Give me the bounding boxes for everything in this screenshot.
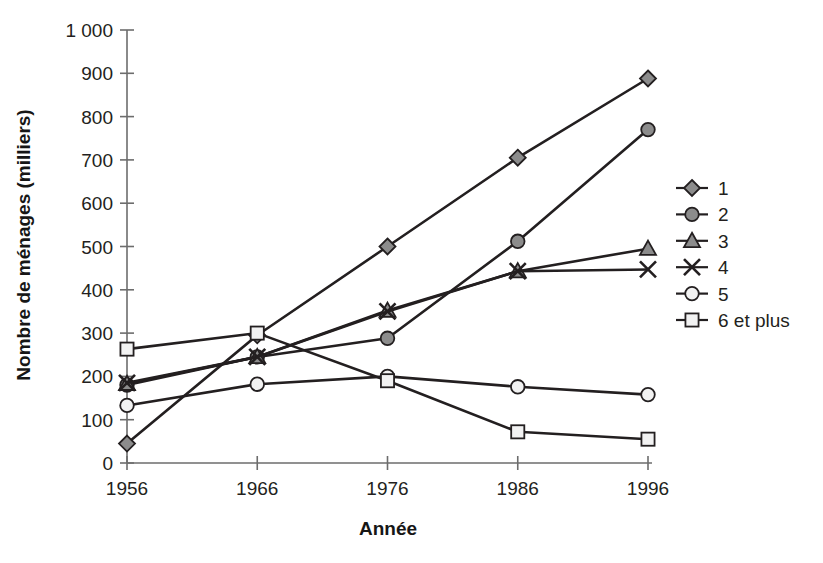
x-tick-label: 1956 (106, 478, 148, 499)
data-marker-square-open (511, 425, 524, 438)
circle-marker (381, 331, 395, 345)
y-tick-label: 500 (81, 237, 113, 258)
circle-marker (685, 208, 699, 222)
circle-marker (511, 235, 525, 249)
y-tick-label: 800 (81, 107, 113, 128)
circle-marker (685, 287, 699, 301)
data-marker-circle (641, 123, 655, 137)
y-tick-label: 900 (81, 63, 113, 84)
y-tick-label: 700 (81, 150, 113, 171)
legend-item-label: 1 (718, 178, 729, 199)
y-tick-label: 100 (81, 410, 113, 431)
x-axis-title: Année (359, 518, 417, 539)
circle-marker (641, 123, 655, 137)
square-marker (120, 343, 133, 356)
line-chart: 01002003004005006007008009001 000 195619… (0, 0, 823, 563)
data-marker-circle-open (120, 399, 134, 413)
data-marker-circle (381, 331, 395, 345)
data-marker-circle-open (250, 377, 264, 391)
data-marker-square-open (641, 433, 654, 446)
square-marker (251, 327, 264, 340)
chart-canvas: 01002003004005006007008009001 000 195619… (0, 0, 823, 563)
data-marker-square-open (381, 374, 394, 387)
y-tick-label: 200 (81, 366, 113, 387)
legend-item-label: 4 (718, 257, 729, 278)
circle-marker (511, 380, 525, 394)
data-marker-circle-open (641, 388, 655, 402)
square-marker (511, 425, 524, 438)
data-marker-circle (511, 235, 525, 249)
circle-marker (641, 388, 655, 402)
circle-marker (120, 399, 134, 413)
square-marker (381, 374, 394, 387)
legend-item-label: 6 et plus (718, 310, 790, 331)
legend-item-label: 5 (718, 284, 729, 305)
legend-item-label: 3 (718, 231, 729, 252)
y-tick-label: 0 (102, 453, 113, 474)
y-tick-label: 1 000 (65, 20, 113, 41)
data-marker-circle-open (685, 287, 699, 301)
data-marker-square-open (251, 327, 264, 340)
x-tick-label: 1976 (366, 478, 408, 499)
x-tick-label: 1966 (236, 478, 278, 499)
x-tick-label: 1996 (627, 478, 669, 499)
y-tick-label: 600 (81, 193, 113, 214)
y-tick-label: 400 (81, 280, 113, 301)
data-marker-square-open (120, 343, 133, 356)
y-axis-title: Nombre de ménages (milliers) (13, 109, 34, 380)
circle-marker (250, 377, 264, 391)
data-marker-circle-open (511, 380, 525, 394)
y-tick-label: 300 (81, 323, 113, 344)
data-marker-circle (685, 208, 699, 222)
square-marker (641, 433, 654, 446)
data-marker-square-open (685, 313, 698, 326)
square-marker (685, 313, 698, 326)
x-tick-label: 1986 (497, 478, 539, 499)
legend-item-label: 2 (718, 204, 729, 225)
